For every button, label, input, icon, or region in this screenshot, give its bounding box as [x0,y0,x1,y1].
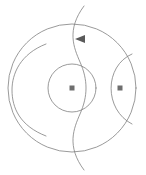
focus-point-right-marker [118,86,123,91]
left-arc [12,44,46,136]
diagram-canvas [0,0,146,175]
geometry-diagram [0,0,146,175]
center-point-marker [70,86,75,91]
s-curve [73,6,86,170]
direction-arrow-icon [75,35,85,43]
